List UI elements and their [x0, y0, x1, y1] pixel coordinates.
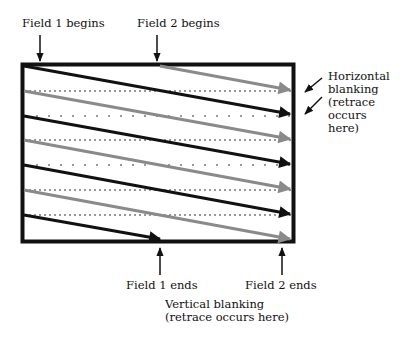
field1-begins-label: Field 1 begins	[22, 17, 105, 30]
field2-ends-label: Field 2 ends	[245, 279, 317, 292]
field1-ends-label: Field 1 ends	[126, 279, 198, 292]
vertical-blanking-label-2: (retrace occurs here)	[165, 311, 289, 324]
field2-begins-label: Field 2 begins	[137, 17, 220, 30]
hblank-arrow-1	[305, 78, 322, 92]
horizontal-blanking-label-5: here)	[328, 122, 359, 135]
field2-scan-lines	[24, 66, 290, 239]
hblank-arrow-2	[305, 97, 322, 114]
interlace-diagram	[0, 0, 405, 341]
